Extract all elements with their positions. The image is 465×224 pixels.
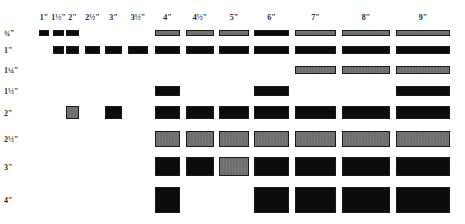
section-block-dark	[295, 106, 336, 119]
section-block-dark	[186, 46, 214, 54]
section-block-dark	[254, 30, 289, 36]
column-header-c4h: 4½"	[193, 13, 207, 22]
section-block-gray	[396, 30, 450, 36]
section-block-dark	[342, 187, 390, 213]
section-block-dark	[155, 46, 180, 54]
row-header: 4"	[4, 196, 12, 205]
column-header-c3h: 3½"	[131, 13, 145, 22]
section-block-dark	[66, 30, 79, 36]
section-block-gray	[155, 131, 180, 147]
section-block-dark	[396, 86, 450, 96]
section-block-dark	[105, 106, 122, 119]
row-header: 1"	[4, 46, 12, 55]
row-header: ¾"	[4, 29, 14, 38]
section-block-dark	[186, 157, 214, 176]
section-block-dark	[396, 157, 450, 176]
section-block-gray	[66, 106, 79, 119]
section-block-dark	[295, 46, 336, 54]
column-header-c1h: 1½"	[51, 13, 65, 22]
section-block-dark	[155, 157, 180, 176]
section-block-dark	[295, 157, 336, 176]
section-block-dark	[396, 46, 450, 54]
section-block-gray	[186, 30, 214, 36]
section-block-gray	[295, 131, 336, 147]
column-header-c9: 9"	[419, 13, 427, 22]
section-block-dark	[396, 106, 450, 119]
section-block-dark	[53, 30, 64, 36]
column-header-c1: 1"	[40, 13, 48, 22]
section-block-dark	[254, 86, 289, 96]
section-block-dark	[342, 106, 390, 119]
section-block-gray	[342, 30, 390, 36]
section-block-dark	[155, 106, 180, 119]
section-block-gray	[254, 131, 289, 147]
column-header-c2: 2"	[68, 13, 76, 22]
section-block-gray	[295, 66, 336, 74]
row-header: 3"	[4, 162, 12, 171]
column-header-c4: 4"	[163, 13, 171, 22]
section-block-dark	[219, 46, 249, 54]
section-block-dark	[396, 187, 450, 213]
section-block-dark	[342, 46, 390, 54]
section-block-gray	[155, 30, 180, 36]
section-block-dark	[295, 187, 336, 213]
section-block-gray	[219, 131, 249, 147]
section-block-dark	[155, 86, 180, 96]
column-header-c7: 7"	[311, 13, 319, 22]
row-header: 2½"	[4, 135, 18, 144]
section-block-dark	[219, 106, 249, 119]
section-block-dark	[342, 157, 390, 176]
section-block-dark	[66, 46, 79, 54]
section-block-dark	[155, 187, 180, 213]
column-header-c5: 5"	[230, 13, 238, 22]
section-block-gray	[396, 131, 450, 147]
section-block-gray	[342, 66, 390, 74]
section-block-dark	[128, 46, 148, 54]
row-header: 1¼"	[4, 66, 18, 75]
column-header-c3: 3"	[109, 13, 117, 22]
section-block-dark	[186, 106, 214, 119]
section-block-dark	[254, 46, 289, 54]
column-header-c6: 6"	[267, 13, 275, 22]
section-block-dark	[254, 187, 289, 213]
section-block-dark	[105, 46, 122, 54]
section-block-gray	[219, 157, 249, 176]
column-header-c2h: 2½"	[85, 13, 99, 22]
section-block-gray	[342, 131, 390, 147]
section-block-dark	[254, 106, 289, 119]
section-block-dark	[85, 46, 100, 54]
section-block-dark	[254, 157, 289, 176]
row-header: 1½"	[4, 87, 18, 96]
row-header: 2"	[4, 108, 12, 117]
section-block-gray	[396, 66, 450, 74]
column-header-c8: 8"	[362, 13, 370, 22]
section-block-gray	[186, 131, 214, 147]
section-block-gray	[295, 30, 336, 36]
section-block-dark	[39, 30, 49, 36]
section-block-dark	[53, 46, 64, 54]
section-block-gray	[219, 30, 249, 36]
